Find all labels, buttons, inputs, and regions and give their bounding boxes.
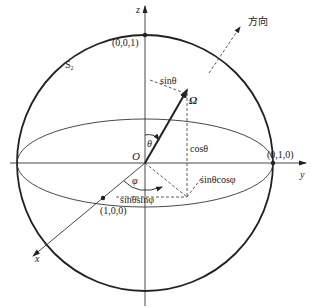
point-label-north: (0,0,1) — [112, 37, 139, 49]
direction-dashed-line — [209, 27, 240, 73]
x-axis-label: x — [34, 253, 40, 264]
point-0-1-0 — [271, 161, 275, 165]
cos-theta-label: cosθ — [190, 143, 208, 154]
z-axis-label: z — [135, 4, 140, 15]
sin-theta-cos-phi-label: sinθcosφ — [200, 174, 236, 185]
point-label-x-unit: (1,0,0) — [100, 205, 127, 217]
sphere-diagram: z y x (0,0,1) (0,1,0) (1,0,0) S2 O Ω 方向 … — [0, 0, 315, 308]
omega-vector — [145, 90, 187, 163]
phi-label: φ — [132, 175, 138, 186]
sin-theta-label: sinθ — [160, 75, 177, 86]
point-1-0-0 — [101, 196, 105, 200]
theta-label: θ — [147, 138, 152, 149]
sphere-label: S2 — [65, 59, 74, 71]
phi-arc — [124, 181, 162, 190]
direction-label: 方向 — [248, 15, 268, 27]
y-axis-label: y — [299, 169, 305, 180]
omega-label: Ω — [189, 94, 198, 106]
x-axis — [33, 163, 145, 256]
sin-theta-sin-phi-label: sinθsinφ — [120, 194, 154, 205]
point-label-y-unit: (0,1,0) — [267, 149, 294, 161]
point-0-0-1 — [143, 33, 147, 37]
projection-dashed-line — [145, 163, 187, 197]
origin-label: O — [132, 150, 140, 162]
